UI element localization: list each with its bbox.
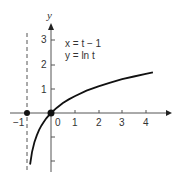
y-tick-label: 3 — [41, 34, 47, 45]
y-ticks — [51, 40, 55, 161]
x-axis-arrow-icon — [166, 110, 172, 116]
y-tick-label: 1 — [41, 84, 47, 95]
curve-ln — [30, 72, 153, 164]
chart: −1 0 1 2 3 4 1 2 3 y x = t − 1 y = ln t — [0, 0, 172, 175]
x-tick-label: 4 — [143, 117, 149, 128]
x-tick-label: 1 — [72, 117, 78, 128]
y-axis-arrow-icon — [48, 23, 54, 30]
equation-x: x = t − 1 — [65, 38, 102, 49]
equation-y: y = ln t — [65, 50, 95, 61]
x-tick-label: 0 — [55, 117, 61, 128]
y-tick-label: 2 — [41, 59, 47, 70]
x-tick-label: −1 — [13, 117, 25, 128]
x-tick-label: 3 — [119, 117, 125, 128]
y-axis-label: y — [46, 9, 52, 21]
x-tick-label: 2 — [96, 117, 102, 128]
point-minus1-0 — [24, 110, 30, 116]
point-origin — [48, 110, 55, 117]
